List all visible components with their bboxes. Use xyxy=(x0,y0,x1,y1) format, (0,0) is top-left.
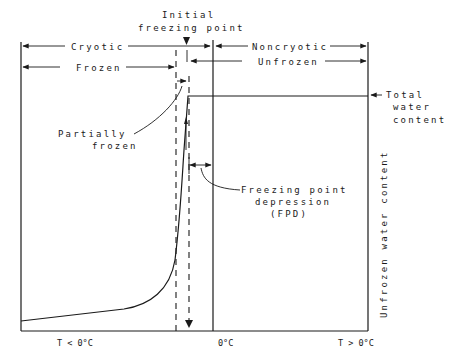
up-arrow-icon xyxy=(184,117,188,124)
label-partially: Partially xyxy=(58,129,127,139)
label-total: Total xyxy=(386,90,424,100)
label-fpd-3: (FPD) xyxy=(270,209,308,219)
x-label-zero: 0°C xyxy=(218,338,233,348)
x-label-below-zero: T < 0°C xyxy=(57,338,93,348)
label-unfrozen: Unfrozen xyxy=(258,57,319,67)
fpd-double-arrow xyxy=(189,157,211,174)
x-label-above-zero: T > 0°C xyxy=(338,338,374,348)
label-noncryotic: Noncryotic xyxy=(252,42,328,52)
label-content: content xyxy=(393,115,446,125)
fpd-leader xyxy=(201,168,240,190)
y-axis-label: Unfrozen water content xyxy=(379,150,389,318)
freezing-diagram: Initial freezing point Cryotic Noncryoti… xyxy=(0,0,459,359)
label-fpd-2: depression xyxy=(255,197,331,207)
label-frozen: Frozen xyxy=(76,63,122,73)
initial-freezing-point-marker-icon xyxy=(183,37,190,45)
partially-frozen-leader xyxy=(134,86,182,134)
label-cryotic: Cryotic xyxy=(71,42,124,52)
label-freezing-point: freezing point xyxy=(138,23,245,33)
label-initial: Initial xyxy=(162,10,215,20)
down-arrow-icon xyxy=(185,320,193,328)
label-fpd-1: Freezing point xyxy=(241,185,348,195)
label-partially-frozen: frozen xyxy=(92,141,138,151)
label-water: water xyxy=(393,102,431,112)
